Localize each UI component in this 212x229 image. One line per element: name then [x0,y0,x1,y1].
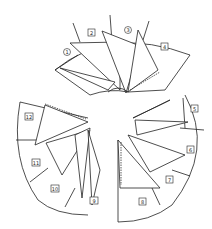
left-divider-2 [30,168,48,182]
top-divider-1 [73,23,80,42]
label-10: 10 [52,186,58,192]
right-flap-1 [135,120,188,135]
left-flap-4 [88,130,100,205]
right-divider-3 [152,188,160,205]
fan-fold-diagram: 1 2 3 4 5 6 7 8 9 10 11 12 [0,0,212,229]
label-8: 8 [141,199,144,205]
diagram-canvas: 1 2 3 4 5 6 7 8 9 10 11 12 [0,0,212,229]
label-12: 12 [26,114,32,120]
left-divider-3 [65,188,75,207]
right-fan-group [118,95,204,222]
top-divider-4 [55,55,78,70]
label-11: 11 [33,160,39,166]
right-divider-1 [180,128,204,130]
top-divider-3 [143,21,149,40]
label-9: 9 [92,198,95,204]
right-divider-2 [172,170,190,176]
top-fan-group [55,15,190,95]
right-flap-4 [133,100,170,118]
label-5: 5 [193,106,196,112]
left-flap-3 [75,128,90,198]
label-7: 7 [168,177,171,183]
label-2: 2 [90,30,93,36]
label-1: 1 [65,49,68,55]
label-6: 6 [189,147,192,153]
label-4: 4 [163,44,166,50]
label-3: 3 [126,27,129,33]
